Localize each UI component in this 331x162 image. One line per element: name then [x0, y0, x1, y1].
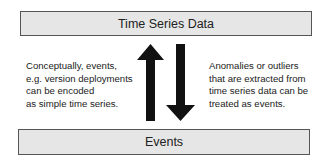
note-line: Anomalies or outliers — [209, 60, 329, 73]
time-series-to-events-note: Anomalies or outliers that are extracted… — [209, 60, 329, 110]
arrow-up-icon — [137, 44, 164, 121]
events-label: Events — [145, 135, 183, 149]
note-line: time series data can be — [209, 85, 329, 98]
note-line: treated as events. — [209, 98, 329, 111]
arrow-down-icon — [166, 44, 195, 121]
events-box: Events — [18, 129, 310, 155]
note-line: that are extracted from — [209, 73, 329, 86]
